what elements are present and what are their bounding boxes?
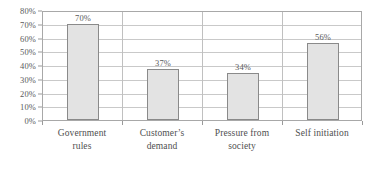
- bar-series: 70%37%34%56%: [43, 12, 361, 120]
- y-axis-tick-label: 0%: [0, 117, 36, 126]
- bar[interactable]: [307, 43, 339, 120]
- y-axis-tick-label: 30%: [0, 75, 36, 84]
- x-axis-category-label: Customer’sdemand: [122, 127, 202, 153]
- bar-group: 70%: [43, 12, 123, 120]
- x-axis: GovernmentrulesCustomer’sdemandPressure …: [42, 127, 362, 169]
- bar-value-label: 56%: [315, 32, 331, 42]
- y-axis-tick-label: 20%: [0, 89, 36, 98]
- x-axis-category-label: Governmentrules: [42, 127, 122, 153]
- bar-group: 56%: [283, 12, 363, 120]
- x-axis-category-label-line: society: [202, 140, 282, 153]
- x-axis-tickmark: [202, 121, 203, 125]
- x-axis-category-label-line: rules: [42, 140, 122, 153]
- x-axis-category-label-line: Government: [42, 127, 122, 140]
- x-axis-category-label-line: Customer’s: [122, 127, 202, 140]
- bar-group: 37%: [123, 12, 203, 120]
- bar[interactable]: [147, 69, 179, 120]
- x-axis-category-label-line: Pressure from: [202, 127, 282, 140]
- y-axis-tick-label: 60%: [0, 34, 36, 43]
- bar[interactable]: [227, 73, 259, 120]
- x-axis-tickmark: [362, 121, 363, 125]
- y-axis-tick-label: 80%: [0, 7, 36, 16]
- y-axis-tick-label: 50%: [0, 48, 36, 57]
- bar-chart: 0%10%20%30%40%50%60%70%80% 70%37%34%56% …: [0, 0, 380, 172]
- x-axis-tickmark: [282, 121, 283, 125]
- x-axis-tickmark: [122, 121, 123, 125]
- y-axis-tick-label: 10%: [0, 103, 36, 112]
- bar-value-label: 34%: [235, 62, 251, 72]
- x-axis-category-label-line: demand: [122, 140, 202, 153]
- x-axis-category-label: Pressure fromsociety: [202, 127, 282, 153]
- x-axis-tickmark: [42, 121, 43, 125]
- y-axis-tick-label: 70%: [0, 20, 36, 29]
- bar-value-label: 37%: [155, 58, 171, 68]
- bar[interactable]: [67, 24, 99, 120]
- x-axis-category-label: Self initiation: [282, 127, 362, 140]
- x-axis-category-label-line: Self initiation: [282, 127, 362, 140]
- y-axis-tick-label: 40%: [0, 62, 36, 71]
- y-axis: 0%10%20%30%40%50%60%70%80%: [0, 11, 36, 121]
- bar-group: 34%: [203, 12, 283, 120]
- bar-value-label: 70%: [75, 13, 91, 23]
- plot-area: 70%37%34%56%: [42, 11, 362, 121]
